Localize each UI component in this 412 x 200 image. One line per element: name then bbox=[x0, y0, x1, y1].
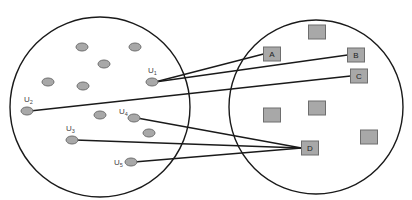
user-node bbox=[42, 78, 54, 86]
user-node-u1 bbox=[146, 78, 158, 86]
item-label-d: D bbox=[307, 144, 313, 153]
user-node bbox=[98, 60, 110, 68]
edge-u1-a bbox=[155, 54, 264, 82]
item-node bbox=[361, 130, 378, 144]
user-label-u1: U1 bbox=[148, 66, 157, 76]
item-label-a: A bbox=[269, 50, 275, 59]
user-node-u5 bbox=[125, 158, 137, 166]
user-label-u4: U4 bbox=[119, 107, 128, 117]
user-node bbox=[76, 43, 88, 51]
user-node-u3 bbox=[66, 136, 78, 144]
item-node bbox=[309, 101, 326, 115]
user-node bbox=[94, 111, 106, 119]
item-label-c: C bbox=[356, 72, 362, 81]
user-label-u2: U2 bbox=[24, 95, 33, 105]
edge-u5-d bbox=[134, 148, 302, 162]
bipartite-diagram: U1U2U3U4U5 ABCD bbox=[0, 0, 412, 200]
user-node bbox=[143, 129, 155, 137]
item-node bbox=[264, 108, 281, 122]
edge-u1-b bbox=[155, 55, 348, 82]
user-nodes-layer: U1U2U3U4U5 bbox=[21, 43, 158, 168]
user-node bbox=[77, 82, 89, 90]
user-label-u3: U3 bbox=[66, 124, 75, 134]
user-label-u5: U5 bbox=[114, 158, 123, 168]
user-node bbox=[129, 43, 141, 51]
item-label-b: B bbox=[353, 51, 358, 60]
user-set-circle bbox=[10, 17, 190, 197]
user-node-u2 bbox=[21, 107, 33, 115]
item-node bbox=[309, 25, 326, 39]
item-nodes-layer: ABCD bbox=[264, 25, 378, 155]
user-node-u4 bbox=[128, 114, 140, 122]
